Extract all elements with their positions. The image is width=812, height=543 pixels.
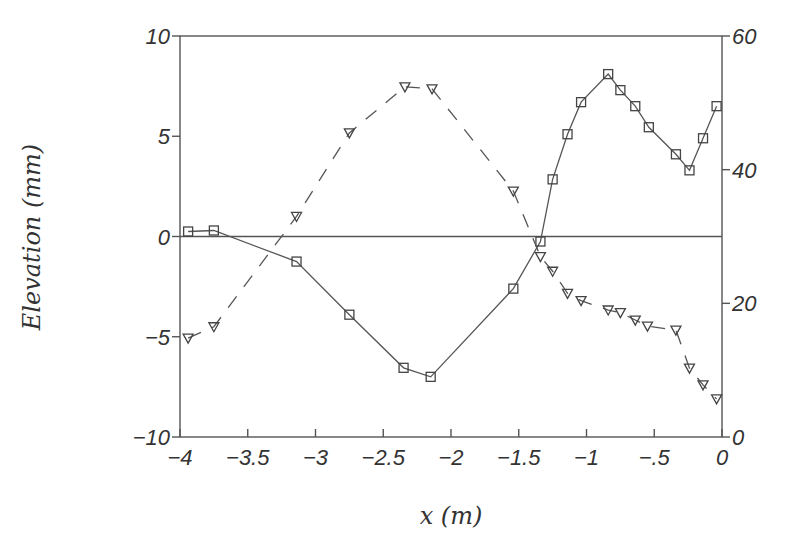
x-tick-label: −2.5	[362, 445, 406, 470]
triangle-marker	[712, 395, 722, 404]
series-line	[188, 87, 716, 399]
chart-svg: −4−3.5−3−2.5−2−1.5−1−.501050−5−106040200…	[0, 0, 812, 543]
x-tick-label: −2	[438, 445, 463, 470]
x-tick-label: −1	[574, 445, 599, 470]
triangle-marker	[615, 309, 625, 318]
triangle-marker	[535, 253, 545, 262]
y-tick-label: −10	[133, 425, 171, 450]
y-axis-title: Elevation (mm)	[18, 144, 46, 331]
series-left-squares	[184, 70, 721, 382]
x-tick-label: −1.5	[497, 445, 541, 470]
y-tick-label: 10	[146, 24, 171, 49]
y2-tick-label: 60	[732, 24, 757, 49]
x-tick-label: −3.5	[226, 445, 270, 470]
series-line	[188, 74, 716, 377]
plot-frame	[180, 36, 722, 437]
x-tick-label: 0	[716, 445, 729, 470]
y2-tick-label: 0	[732, 425, 745, 450]
x-tick-label: −3	[303, 445, 329, 470]
series-right-triangles	[183, 83, 721, 404]
axis-ticks: −4−3.5−3−2.5−2−1.5−1−.501050−5−106040200	[133, 24, 758, 470]
y2-tick-label: 40	[732, 158, 757, 183]
x-tick-label: −.5	[639, 445, 671, 470]
y-tick-label: 0	[158, 225, 171, 250]
x-axis-title: x (m)	[420, 502, 483, 530]
y-tick-label: −5	[145, 325, 171, 350]
x-tick-label: −4	[167, 445, 192, 470]
triangle-marker	[183, 334, 193, 343]
triangle-marker	[642, 322, 652, 331]
y-tick-label: 5	[158, 124, 171, 149]
y2-tick-label: 20	[731, 291, 757, 316]
triangle-marker	[671, 326, 681, 335]
